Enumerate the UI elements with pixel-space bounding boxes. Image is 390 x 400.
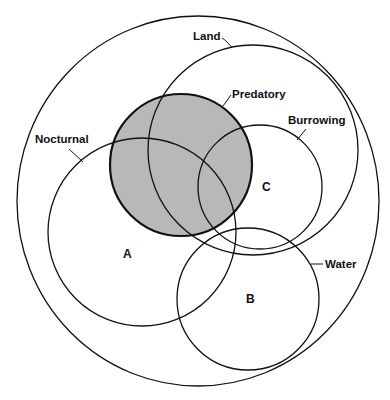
nocturnal-leader-line [69,149,83,162]
land-label: Land [193,30,220,42]
predatory-label: Predatory [232,88,286,100]
region-c-label: C [262,180,271,194]
region-a-label: A [123,247,132,261]
venn-diagram: Land Predatory Burrowing Nocturnal Water… [0,0,390,400]
water-label: Water [325,258,357,270]
land-leader-line [222,38,232,47]
burrowing-label: Burrowing [288,114,346,126]
nocturnal-label: Nocturnal [35,133,89,145]
region-b-label: B [246,292,255,306]
burrowing-leader-line [297,129,306,140]
predatory-leader-line [223,95,231,106]
